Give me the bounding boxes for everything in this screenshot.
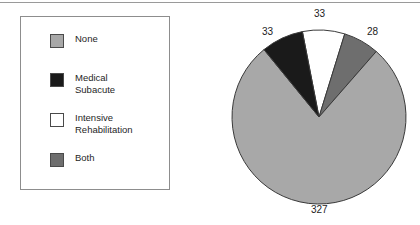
- legend-swatch-medical-subacute: [50, 73, 64, 87]
- legend-item-both[interactable]: Both: [50, 152, 95, 167]
- legend-label-none: None: [75, 33, 98, 45]
- legend-swatch-none: [50, 34, 64, 48]
- legend-swatch-both: [50, 153, 64, 167]
- pie-slice-group: [232, 30, 406, 204]
- legend-label-both: Both: [75, 152, 95, 164]
- legend-label-intensive-rehabilitation: Intensive Rehabilitation: [75, 112, 133, 135]
- pie-data-label-none: 327: [311, 204, 328, 215]
- pie-chart: 33 28 33 327: [210, 0, 420, 225]
- legend-item-medical-subacute[interactable]: Medical Subacute: [50, 72, 115, 95]
- legend-swatch-intensive-rehabilitation: [50, 113, 64, 127]
- chart-legend: None Medical Subacute Intensive Rehabili…: [20, 16, 170, 190]
- legend-item-intensive-rehabilitation[interactable]: Intensive Rehabilitation: [50, 112, 133, 135]
- figure-canvas: None Medical Subacute Intensive Rehabili…: [0, 0, 420, 225]
- pie-data-label-both: 28: [367, 26, 378, 37]
- legend-item-none[interactable]: None: [50, 33, 98, 48]
- pie-data-label-intensive-rehabilitation: 33: [314, 8, 325, 19]
- pie-chart-svg: [210, 0, 420, 225]
- pie-data-label-medical-subacute: 33: [262, 26, 273, 37]
- legend-label-medical-subacute: Medical Subacute: [75, 72, 115, 95]
